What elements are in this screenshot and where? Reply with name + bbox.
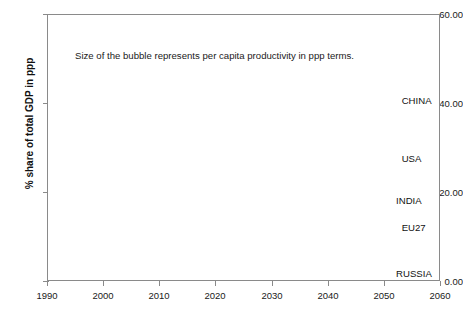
y-tick-mark-0 bbox=[43, 281, 49, 282]
x-tick-mark-2000 bbox=[103, 281, 104, 286]
x-tick-label-2010: 2010 bbox=[148, 290, 169, 301]
x-tick-label-2040: 2040 bbox=[317, 290, 338, 301]
chart-annotation: Size of the bubble represents per capita… bbox=[75, 50, 354, 61]
x-tick-label-2030: 2030 bbox=[261, 290, 282, 301]
x-tick-label-2020: 2020 bbox=[204, 290, 225, 301]
series-label-eu27: EU27 bbox=[401, 222, 427, 233]
x-tick-mark-2020 bbox=[215, 281, 216, 286]
x-tick-mark-2040 bbox=[328, 281, 329, 286]
x-tick-label-2050: 2050 bbox=[373, 290, 394, 301]
series-label-russia: RUSSIA bbox=[395, 268, 433, 279]
x-tick-label-1990: 1990 bbox=[36, 290, 57, 301]
x-tick-mark-2010 bbox=[159, 281, 160, 286]
x-tick-mark-1990 bbox=[47, 281, 48, 286]
x-tick-label-2060: 2060 bbox=[429, 290, 450, 301]
bubble-chart: % share of total GDP in ppp 60.00 40.00 … bbox=[0, 0, 463, 334]
x-tick-mark-2060 bbox=[440, 281, 441, 286]
series-label-usa: USA bbox=[401, 153, 423, 164]
x-tick-label-2000: 2000 bbox=[92, 290, 113, 301]
x-tick-mark-2050 bbox=[384, 281, 385, 286]
y-axis-label: % share of total GDP in ppp bbox=[24, 49, 35, 199]
series-label-china: CHINA bbox=[401, 95, 433, 106]
x-tick-mark-2030 bbox=[272, 281, 273, 286]
series-label-india: INDIA bbox=[395, 195, 423, 206]
